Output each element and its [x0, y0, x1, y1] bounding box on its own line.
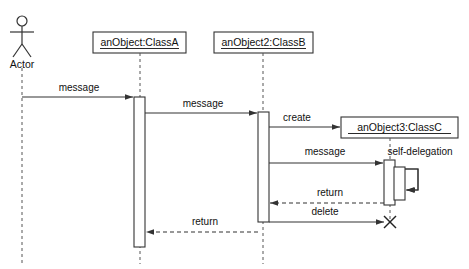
message-7-label: delete — [311, 206, 339, 217]
participant-actor[interactable]: Actor — [10, 16, 35, 264]
activation-object-c-outer[interactable] — [384, 160, 395, 205]
message-7-delete[interactable]: delete — [269, 206, 384, 222]
message-3-label: create — [283, 112, 311, 123]
activation-object-b[interactable] — [258, 112, 269, 222]
actor-leg-left-icon — [13, 44, 22, 57]
actor-leg-right-icon — [22, 44, 31, 57]
message-4[interactable]: message — [269, 146, 383, 163]
message-6-return[interactable]: return — [270, 187, 384, 203]
message-1-label: message — [59, 82, 100, 93]
message-1[interactable]: message — [22, 82, 133, 97]
activation-object-c-inner[interactable] — [394, 167, 405, 200]
message-2-label: message — [183, 98, 224, 109]
object-a-label: anObject:ClassA — [100, 36, 178, 48]
message-2[interactable]: message — [145, 98, 257, 113]
actor-label: Actor — [10, 58, 35, 70]
sequence-diagram-canvas: Actor anObject:ClassA anObject2:ClassB a… — [0, 0, 469, 269]
message-8-label: return — [192, 216, 218, 227]
sequence-diagram-svg: Actor anObject:ClassA anObject2:ClassB a… — [0, 0, 469, 269]
object-b-label: anObject2:ClassB — [221, 36, 305, 48]
message-8-return[interactable]: return — [146, 216, 258, 232]
message-6-label: return — [317, 187, 343, 198]
message-5-label: self-delegation — [387, 146, 452, 157]
object-c-label: anObject3:ClassC — [357, 121, 442, 133]
self-delegation-loop — [405, 169, 418, 190]
message-5-self-arrow — [405, 169, 418, 190]
activation-object-a[interactable] — [134, 97, 145, 247]
actor-head-icon — [17, 16, 27, 26]
message-4-label: message — [305, 146, 346, 157]
message-3-create[interactable]: create — [269, 112, 340, 127]
